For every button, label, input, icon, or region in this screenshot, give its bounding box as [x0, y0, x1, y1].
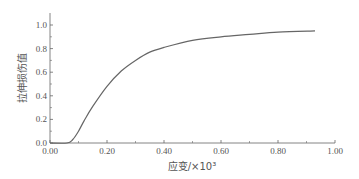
x-axis-label: 应变/×10³ — [168, 160, 216, 172]
y-tick-label: 0.8 — [36, 44, 48, 54]
damage-curve — [50, 31, 315, 143]
x-tick-label: 0.20 — [99, 146, 115, 156]
x-tick-label: 0.40 — [156, 146, 172, 156]
x-tick-label: 0.60 — [213, 146, 229, 156]
y-axis-label: 拉伸损伤值 — [16, 53, 28, 103]
x-tick-label: 1.00 — [327, 146, 343, 156]
y-tick-label: 0.6 — [36, 67, 48, 77]
y-tick-label: 0.2 — [36, 114, 47, 124]
chart: 0.00.20.40.60.81.0 0.000.200.400.600.801… — [0, 0, 359, 179]
x-ticks: 0.000.200.400.600.801.00 — [42, 140, 343, 156]
axes — [50, 13, 335, 143]
y-tick-label: 0.4 — [36, 91, 48, 101]
y-ticks: 0.00.20.40.60.81.0 — [36, 20, 53, 148]
x-tick-label: 0.00 — [42, 146, 58, 156]
x-tick-label: 0.80 — [270, 146, 286, 156]
y-tick-label: 1.0 — [36, 20, 48, 30]
